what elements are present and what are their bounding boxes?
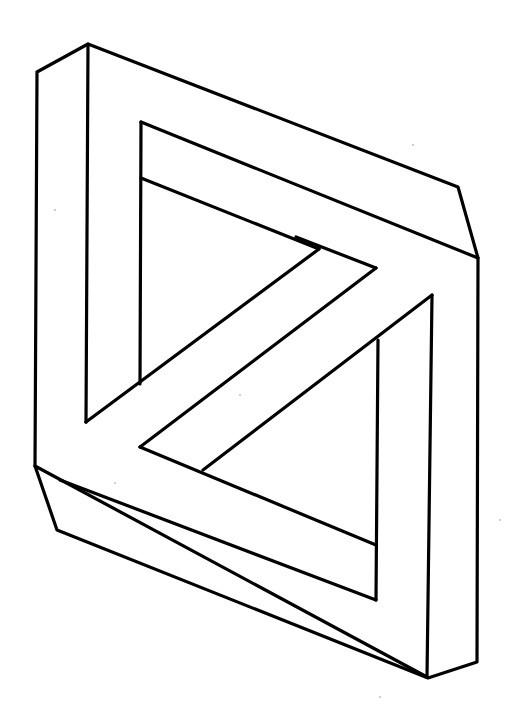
inner-top-left-vertical: [140, 122, 141, 384]
outer-outline: [35, 44, 478, 678]
impossible-figure-drawing: [0, 0, 523, 723]
paper-speck: [54, 209, 56, 211]
inner-bottom-edge: [140, 447, 376, 545]
inner-right-vertical: [376, 340, 378, 600]
paper-speck: [114, 482, 116, 484]
bottom-crease-edge: [35, 466, 427, 677]
front-vertical-edge: [86, 44, 88, 422]
paper-speck: [379, 696, 381, 698]
right-front-vertical: [427, 295, 432, 677]
inner-shelf-edge: [141, 178, 319, 249]
lower-shelf-edge: [60, 480, 376, 600]
top-crease-edge: [141, 122, 478, 258]
paper-speck: [499, 519, 501, 521]
paper-speck: [412, 144, 414, 146]
diagonal-bar-upper: [86, 249, 319, 422]
paper-speck: [239, 394, 241, 396]
inner-top-tip-edge: [296, 237, 376, 268]
inner-diagonal-short: [203, 295, 432, 470]
